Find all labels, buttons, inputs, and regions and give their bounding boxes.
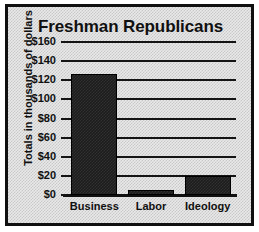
- y-axis-tick-label: $20: [8, 169, 56, 181]
- chart-frame: Freshman Republicans Totals in thousands…: [5, 4, 254, 226]
- y-axis-tick: [61, 118, 66, 120]
- chart-figure: Freshman Republicans Totals in thousands…: [0, 0, 259, 232]
- bar-business: [71, 74, 117, 195]
- x-axis-label-ideology: Ideology: [179, 200, 236, 212]
- x-axis-label-labor: Labor: [123, 200, 180, 212]
- y-axis-tick: [61, 79, 66, 81]
- y-axis-tick-label: $80: [8, 112, 56, 124]
- y-axis-tick-label: $160: [8, 35, 56, 47]
- gridline: [66, 41, 236, 43]
- bar-ideology: [185, 176, 231, 195]
- y-axis-title: Totals in thousands of dollars: [22, 8, 34, 168]
- y-axis-tick: [61, 194, 66, 196]
- y-axis-tick: [61, 137, 66, 139]
- y-axis-tick: [61, 156, 66, 158]
- plot-area: $0$20$40$60$80$100$120$140$160 BusinessL…: [66, 42, 236, 195]
- chart-title: Freshman Republicans: [10, 17, 251, 37]
- bar-labor: [128, 190, 174, 195]
- y-axis-tick-label: $40: [8, 150, 56, 162]
- gridline: [66, 60, 236, 62]
- y-axis-tick-label: $140: [8, 54, 56, 66]
- y-axis-tick: [61, 41, 66, 43]
- chart-inner: Freshman Republicans Totals in thousands…: [10, 9, 251, 223]
- y-axis-tick: [61, 98, 66, 100]
- y-axis-tick-label: $120: [8, 73, 56, 85]
- y-axis-tick-label: $100: [8, 92, 56, 104]
- y-axis-tick: [61, 60, 66, 62]
- y-axis-tick-label: $60: [8, 131, 56, 143]
- y-axis-tick-label: $0: [8, 188, 56, 200]
- y-axis-tick: [61, 175, 66, 177]
- x-axis-label-business: Business: [66, 200, 123, 212]
